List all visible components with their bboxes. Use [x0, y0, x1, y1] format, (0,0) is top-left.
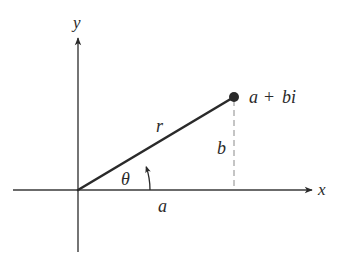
- angle-arc: [146, 167, 150, 190]
- point-label-a: a: [249, 87, 258, 107]
- point-label-plus: +: [264, 87, 274, 107]
- x-axis-label: x: [317, 180, 326, 199]
- horizontal-a-label: a: [158, 196, 167, 216]
- point-marker: [229, 92, 239, 102]
- point-label-bi: bi: [282, 87, 296, 107]
- point-label: a + bi: [249, 87, 296, 107]
- complex-plane-diagram: x y θ r b a a + bi: [0, 0, 344, 264]
- y-axis: y: [71, 13, 81, 252]
- radius-label: r: [156, 116, 164, 136]
- vertical-b-label: b: [217, 138, 226, 158]
- y-axis-label: y: [71, 13, 81, 32]
- x-axis: x: [13, 180, 326, 199]
- radius-line: [78, 97, 234, 190]
- angle-label: θ: [121, 169, 130, 189]
